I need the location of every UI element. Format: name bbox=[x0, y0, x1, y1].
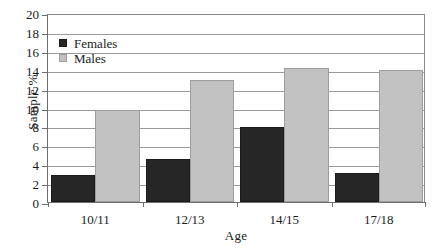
x-axis-tick bbox=[332, 202, 333, 207]
y-axis-tick bbox=[42, 166, 48, 167]
y-axis-tick bbox=[42, 91, 48, 92]
y-axis-tick bbox=[42, 147, 48, 148]
legend-item-females: Females bbox=[59, 36, 117, 50]
legend: Females Males bbox=[59, 36, 117, 66]
x-axis-tick bbox=[237, 202, 238, 207]
y-axis-tick-label: 14 bbox=[26, 64, 39, 80]
y-axis-tick-label: 8 bbox=[33, 120, 40, 136]
y-axis-tick-label: 12 bbox=[26, 83, 39, 99]
y-axis-tick-label: 2 bbox=[33, 177, 40, 193]
bar-females-17-18 bbox=[335, 173, 379, 202]
x-axis-tick-label: 17/18 bbox=[364, 212, 394, 228]
y-axis-tick bbox=[42, 128, 48, 129]
y-axis-tick-label: 4 bbox=[33, 158, 40, 174]
y-axis-tick bbox=[42, 15, 48, 16]
legend-label-females: Females bbox=[74, 37, 117, 50]
y-axis-tick bbox=[42, 34, 48, 35]
x-axis-tick bbox=[425, 202, 426, 207]
bar-males-14-15 bbox=[284, 68, 328, 202]
y-axis-tick-label: 10 bbox=[26, 102, 39, 118]
x-axis-tick bbox=[143, 202, 144, 207]
bar-females-12-13 bbox=[146, 159, 190, 202]
y-axis-tick bbox=[42, 72, 48, 73]
y-axis-tick-label: 20 bbox=[26, 7, 39, 23]
bar-females-14-15 bbox=[240, 127, 284, 202]
y-axis-tick bbox=[42, 110, 48, 111]
bar-males-12-13 bbox=[190, 80, 234, 202]
x-axis-tick-label: 10/11 bbox=[81, 212, 110, 228]
y-axis-tick-label: 6 bbox=[33, 139, 40, 155]
y-axis-tick-label: 0 bbox=[33, 196, 40, 212]
bar-males-10-11 bbox=[95, 110, 139, 202]
y-axis-tick-label: 16 bbox=[26, 45, 39, 61]
y-axis-tick bbox=[42, 53, 48, 54]
x-axis-title: Age bbox=[47, 228, 425, 244]
y-axis-tick-label: 18 bbox=[26, 26, 39, 42]
y-axis-tick bbox=[42, 185, 48, 186]
legend-swatch-females-icon bbox=[59, 39, 67, 47]
bar-males-17-18 bbox=[379, 70, 423, 202]
legend-item-males: Males bbox=[59, 51, 117, 65]
bar-chart: Sample % 02468101214161820 10/1112/1314/… bbox=[0, 0, 439, 249]
legend-swatch-males-icon bbox=[59, 54, 67, 62]
x-axis-tick bbox=[48, 202, 49, 207]
bar-females-10-11 bbox=[51, 175, 95, 202]
legend-label-males: Males bbox=[74, 52, 106, 65]
x-axis-tick-label: 14/15 bbox=[269, 212, 299, 228]
x-axis-tick-label: 12/13 bbox=[175, 212, 205, 228]
